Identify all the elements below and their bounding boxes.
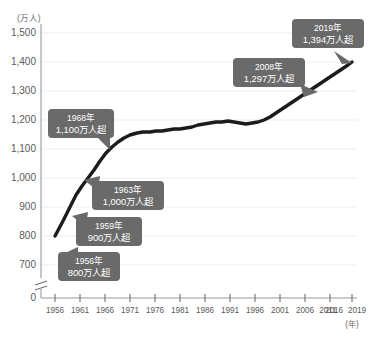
callout-1959[interactable]: 1959年 900万人超 [72, 212, 142, 246]
x-tick-1956: 1956 [46, 306, 65, 315]
x-tick-1971: 1971 [121, 306, 140, 315]
y-tick-900: 900 [19, 201, 36, 212]
callout-1959-year: 1959年 [95, 220, 123, 231]
y-tick-1100: 1,100 [11, 143, 36, 154]
y-tick-0: 0 [30, 292, 36, 303]
y-tick-700: 700 [19, 259, 36, 270]
callout-1956-year: 1956年 [75, 255, 103, 266]
callout-1963-year: 1963年 [114, 184, 142, 195]
callout-2019-year: 2019年 [314, 22, 342, 33]
x-tick-2006: 2006 [296, 306, 315, 315]
chart-background [0, 0, 369, 337]
x-tick-2016: 2016 [325, 306, 344, 315]
x-tick-1976: 1976 [146, 306, 165, 315]
callout-1956[interactable]: 1956年 800万人超 [58, 247, 120, 281]
x-axis-unit-label: (年) [345, 319, 359, 329]
y-tick-800: 800 [19, 230, 36, 241]
x-tick-1986: 1986 [196, 306, 215, 315]
y-tick-1300: 1,300 [11, 85, 36, 96]
chart-svg: (万人) 1,500 1,400 1,300 1,200 1,100 1,000… [0, 0, 369, 337]
x-tick-1981: 1981 [171, 306, 190, 315]
y-tick-1500: 1,500 [11, 27, 36, 38]
x-tick-1966: 1966 [96, 306, 115, 315]
y-tick-1000: 1,000 [11, 172, 36, 183]
x-tick-2001: 2001 [271, 306, 290, 315]
callout-1968-year: 1968年 [67, 112, 95, 123]
callout-2008-year: 2008年 [255, 61, 283, 72]
callout-1956-value: 800万人超 [68, 267, 112, 278]
callout-1963[interactable]: 1963年 1,000万人超 [84, 176, 164, 210]
x-tick-1991: 1991 [221, 306, 240, 315]
callout-1963-value: 1,000万人超 [103, 196, 154, 207]
callout-1968-value: 1,100万人超 [56, 124, 107, 135]
y-tick-1400: 1,400 [11, 56, 36, 67]
y-axis-unit-label: (万人) [17, 13, 41, 23]
y-tick-1200: 1,200 [11, 114, 36, 125]
x-tick-1996: 1996 [246, 306, 265, 315]
callout-1959-value: 900万人超 [88, 232, 132, 243]
line-chart: (万人) 1,500 1,400 1,300 1,200 1,100 1,000… [0, 0, 369, 337]
x-tick-2019: 2019 [348, 306, 367, 315]
x-tick-1961: 1961 [71, 306, 90, 315]
callout-2019-value: 1,394万人超 [303, 34, 354, 45]
callout-2008-value: 1,297万人超 [244, 73, 295, 84]
